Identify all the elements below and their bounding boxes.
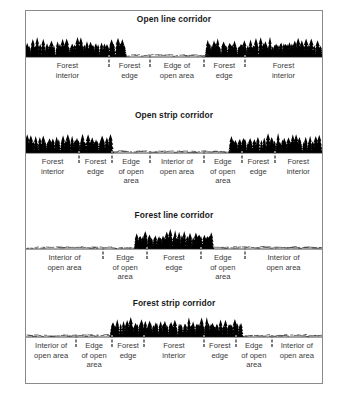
forest-profile-illustration xyxy=(26,121,322,155)
zone-divider-icon xyxy=(236,335,237,347)
forest-profile-illustration xyxy=(26,25,322,59)
zone-label-line: open area xyxy=(27,351,75,361)
zone-divider-icon xyxy=(242,151,243,163)
zone-segment-forest-edge: Forestedge xyxy=(204,59,245,80)
zone-label-line: interior xyxy=(27,71,108,81)
zone-segment-edge-of-open-area: Edgeof openarea xyxy=(112,155,150,186)
zone-segment-interior-of-open-area: Interior ofopen area xyxy=(26,251,103,272)
zone-label-line: area xyxy=(104,272,146,282)
zone-label-line: Edge xyxy=(205,157,241,167)
zone-label-line: Edge xyxy=(237,341,271,351)
zone-label-line: edge xyxy=(205,71,244,81)
zone-segment-forest-interior: Forestinterior xyxy=(26,59,109,80)
zone-label-line: area xyxy=(113,176,149,186)
zone-label-line: open area xyxy=(273,351,321,361)
zone-segment-edge-of-open-area: Edgeof openarea xyxy=(204,155,242,186)
zone-label-line: interior xyxy=(145,351,202,361)
zone-label-line: Edge xyxy=(202,253,244,263)
zone-label-line: Forest xyxy=(27,157,78,167)
zone-divider-icon xyxy=(275,151,276,163)
zone-segment-forest-edge: Forestedge xyxy=(204,339,237,360)
zone-divider-icon xyxy=(79,151,80,163)
panel-title: Forest strip corridor xyxy=(26,295,322,309)
zone-label-line: open area xyxy=(151,167,202,177)
zone-label-line: Forest xyxy=(205,341,236,351)
zone-divider-icon xyxy=(204,151,205,163)
zone-label-line: open area xyxy=(151,71,202,81)
forest-profile-illustration xyxy=(26,309,322,339)
figure-panel-container: Open line corridorForestinteriorForested… xyxy=(25,10,323,384)
zone-label-row: Interior ofopen areaEdgeof openareaFores… xyxy=(26,251,322,282)
zone-label-line: area xyxy=(205,176,241,186)
zone-label-line: Forest xyxy=(243,157,274,167)
panel-forest-strip-corridor: Forest strip corridorInterior ofopen are… xyxy=(26,295,322,385)
zone-label-line: Forest xyxy=(276,157,321,167)
zone-label-line: Forest xyxy=(80,157,111,167)
zone-segment-interior-of-open-area: Interior ofopen area xyxy=(245,251,322,272)
panel-open-line-corridor: Open line corridorForestinteriorForested… xyxy=(26,11,322,107)
zone-segment-forest-edge: Forestedge xyxy=(147,251,200,272)
zone-label-line: Interior of xyxy=(27,253,102,263)
zone-label-line: of open xyxy=(205,167,241,177)
zone-divider-icon xyxy=(245,247,246,259)
zone-label-line: area xyxy=(202,272,244,282)
zone-label-line: Interior of xyxy=(246,253,321,263)
zone-label-row: Interior ofopen areaEdgeof openareaFores… xyxy=(26,339,322,370)
zone-divider-icon xyxy=(112,151,113,163)
zone-segment-forest-interior: Forestinterior xyxy=(26,155,79,176)
zone-label-line: edge xyxy=(148,263,199,273)
panel-title: Open strip corridor xyxy=(26,107,322,121)
zone-label-line: Forest xyxy=(110,61,149,71)
zone-segment-edge-of-open-area: Edgeof openarea xyxy=(76,339,112,370)
zone-label-line: area xyxy=(77,360,111,370)
zone-label-line: edge xyxy=(110,71,149,81)
zone-segment-forest-edge: Forestedge xyxy=(79,155,112,176)
zone-label-line: open area xyxy=(246,263,321,273)
zone-label-line: Interior of xyxy=(151,157,202,167)
zone-segment-edge-of-open-area: Edgeof openarea xyxy=(236,339,272,370)
zone-segment-forest-edge: Forestedge xyxy=(242,155,275,176)
zone-segment-forest-interior: Forestinterior xyxy=(275,155,322,176)
zone-divider-icon xyxy=(76,335,77,347)
zone-label-line: Interior of xyxy=(273,341,321,351)
zone-label-line: Edge xyxy=(77,341,111,351)
zone-divider-icon xyxy=(103,247,104,259)
zone-divider-icon xyxy=(204,55,205,67)
zone-label-line: of open xyxy=(237,351,271,361)
zone-label-line: edge xyxy=(243,167,274,177)
zone-label-line: of open xyxy=(104,263,146,273)
zone-label-line: Interior of xyxy=(27,341,75,351)
zone-segment-edge-of-open-area: Edge ofopen area xyxy=(150,59,203,80)
zone-divider-icon xyxy=(272,335,273,347)
zone-label-line: Forest xyxy=(113,341,144,351)
zone-label-line: area xyxy=(237,360,271,370)
zone-divider-icon xyxy=(245,55,246,67)
zone-divider-icon xyxy=(112,335,113,347)
zone-label-line: Forest xyxy=(145,341,202,351)
zone-label-line: Edge xyxy=(113,157,149,167)
zone-label-line: Forest xyxy=(205,61,244,71)
zone-label-line: edge xyxy=(113,351,144,361)
zone-label-row: ForestinteriorForestedgeEdge ofopen area… xyxy=(26,59,322,80)
zone-segment-interior-of-open-area: Interior ofopen area xyxy=(26,339,76,360)
panel-title: Open line corridor xyxy=(26,11,322,25)
zone-label-row: ForestinteriorForestedgeEdgeof openareaI… xyxy=(26,155,322,186)
zone-label-line: of open xyxy=(113,167,149,177)
zone-label-line: Forest xyxy=(27,61,108,71)
zone-segment-forest-interior: Forestinterior xyxy=(245,59,322,80)
zone-divider-icon xyxy=(150,151,151,163)
zone-divider-icon xyxy=(204,335,205,347)
zone-label-line: interior xyxy=(246,71,321,81)
panel-open-strip-corridor: Open strip corridorForestinteriorForeste… xyxy=(26,107,322,207)
panel-title: Forest line corridor xyxy=(26,207,322,221)
zone-label-line: interior xyxy=(27,167,78,177)
zone-label-line: open area xyxy=(27,263,102,273)
zone-segment-interior-of-open-area: Interior ofopen area xyxy=(272,339,322,360)
panel-forest-line-corridor: Forest line corridorInterior ofopen area… xyxy=(26,207,322,295)
zone-label-line: of open xyxy=(202,263,244,273)
zone-label-line: edge xyxy=(205,351,236,361)
zone-label-line: edge xyxy=(80,167,111,177)
zone-divider-icon xyxy=(144,335,145,347)
forest-profile-illustration xyxy=(26,221,322,251)
zone-divider-icon xyxy=(201,247,202,259)
